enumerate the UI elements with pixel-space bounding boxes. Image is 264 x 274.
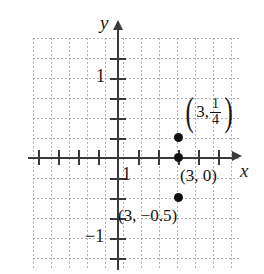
gridline-vertical <box>123 38 124 268</box>
x-axis-tick <box>218 150 220 165</box>
gridline-vertical <box>51 38 52 268</box>
y-axis-tick-label-negative-1: −1 <box>85 226 104 247</box>
gridline-vertical <box>195 38 196 268</box>
point-comma: , <box>205 102 209 122</box>
y-axis-tick <box>110 98 126 100</box>
gridline-horizontal <box>33 198 240 199</box>
y-axis-tick <box>110 138 126 140</box>
y-axis-tick <box>110 78 126 80</box>
x-axis-tick <box>158 150 160 165</box>
gridline-horizontal <box>33 38 240 39</box>
x-axis-tick <box>38 150 40 165</box>
y-axis-arrow-icon <box>113 20 123 30</box>
close-paren: ) <box>225 95 233 129</box>
fraction-denominator: 4 <box>210 113 221 127</box>
y-axis-tick <box>110 58 126 60</box>
x-axis-tick <box>138 150 140 165</box>
y-axis-line <box>117 28 119 270</box>
open-paren: ( <box>186 95 194 129</box>
y-axis-tick-label-1: 1 <box>96 66 105 87</box>
gridline-vertical <box>213 38 214 268</box>
gridline-horizontal <box>33 138 240 139</box>
gridline-vertical <box>69 38 70 268</box>
gridline-vertical <box>33 38 34 268</box>
y-axis-tick <box>110 118 126 120</box>
point-label-zero: (3, 0) <box>180 166 217 186</box>
coordinate-plane-figure: x y 1 1 −1 ( 3 , 1 4 ) (3, 0) (3, −0.5) <box>0 0 264 274</box>
x-axis-tick-label-1: 1 <box>122 164 131 185</box>
gridline-horizontal <box>33 58 240 59</box>
x-axis-tick <box>78 150 80 165</box>
y-axis-tick <box>110 238 126 240</box>
fraction-numerator: 1 <box>210 97 221 111</box>
point-label-quarter: ( 3 , 1 4 ) <box>183 95 235 129</box>
y-axis-tick <box>110 258 126 260</box>
gridline-vertical <box>141 38 142 268</box>
data-point-zero <box>174 153 183 162</box>
gridline-horizontal <box>33 78 240 79</box>
x-axis-tick <box>98 150 100 165</box>
point-x-value: 3 <box>196 102 205 122</box>
fraction-one-quarter: 1 4 <box>210 97 221 127</box>
y-axis-label: y <box>100 12 108 34</box>
gridline-horizontal <box>33 258 240 259</box>
point-label-neghalf: (3, −0.5) <box>118 206 177 226</box>
x-axis-label: x <box>240 160 248 182</box>
gridline-vertical <box>105 38 106 268</box>
x-axis-tick <box>198 150 200 165</box>
gridline-horizontal <box>33 238 240 239</box>
data-point-quarter <box>174 133 183 142</box>
x-axis-tick <box>58 150 60 165</box>
data-point-neghalf <box>174 193 183 202</box>
y-axis-tick <box>110 198 126 200</box>
